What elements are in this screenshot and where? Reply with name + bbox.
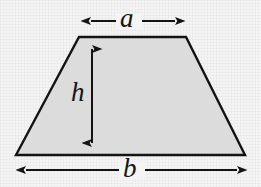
bottom-side-label: b <box>123 155 137 182</box>
figure-canvas: a h b <box>0 0 261 187</box>
trapezoid-shape <box>16 37 245 155</box>
top-side-label: a <box>120 5 134 32</box>
height-label: h <box>71 79 85 106</box>
